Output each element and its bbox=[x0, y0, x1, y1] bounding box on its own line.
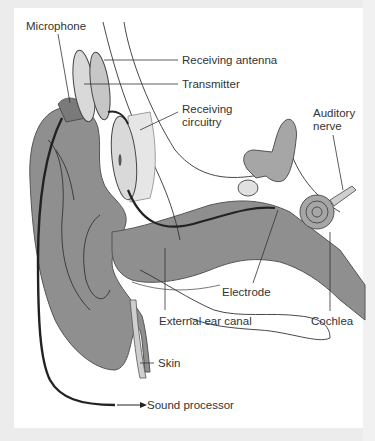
label-cochlea: Cochlea bbox=[311, 315, 353, 328]
label-transmitter: Transmitter bbox=[182, 78, 240, 91]
label-receiving-circuitry-line2: circuitry bbox=[182, 116, 222, 129]
label-auditory-nerve-line2: nerve bbox=[313, 120, 342, 133]
sound-processor-arrow-head bbox=[140, 402, 147, 408]
label-electrode: Electrode bbox=[222, 286, 271, 299]
label-sound-processor: Sound processor bbox=[147, 399, 234, 412]
canal-inner-lower bbox=[132, 282, 220, 290]
label-receiving-circuitry-line1: Receiving bbox=[182, 103, 233, 116]
leader-microphone bbox=[58, 34, 70, 103]
label-receiving-antenna: Receiving antenna bbox=[182, 54, 277, 67]
label-external-ear-canal: External ear canal bbox=[159, 315, 252, 328]
semicircular-canals bbox=[244, 119, 297, 181]
leader-auditory-nerve bbox=[333, 135, 343, 190]
label-auditory-nerve-line1: Auditory bbox=[313, 107, 355, 120]
label-microphone: Microphone bbox=[26, 20, 86, 33]
cochlea-spiral-outer bbox=[300, 195, 334, 229]
label-skin: Skin bbox=[158, 357, 180, 370]
ossicle bbox=[238, 180, 258, 196]
circuitry-center bbox=[119, 154, 122, 166]
